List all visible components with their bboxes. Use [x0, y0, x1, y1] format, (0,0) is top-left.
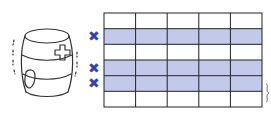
- x-mark-row-4: ✖: [88, 61, 100, 75]
- grid-lines: [104, 13, 262, 107]
- brace-icon: [266, 84, 269, 102]
- x-mark-row-5: ✖: [88, 76, 100, 90]
- shaded-row-2: [104, 29, 262, 45]
- x-mark-row-2: ✖: [88, 29, 100, 43]
- shaded-row-4: [104, 60, 262, 76]
- row-grid: [0, 0, 271, 117]
- shaded-row-5: [104, 76, 262, 92]
